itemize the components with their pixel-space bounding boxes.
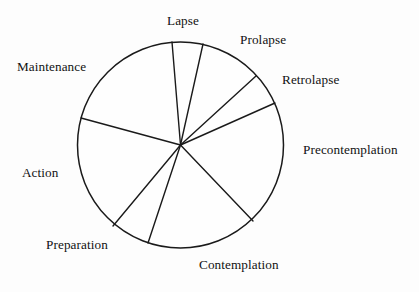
segment-label-precontemplation: Precontemplation [303, 143, 398, 156]
segment-label-prolapse: Prolapse [240, 33, 286, 46]
segment-label-action: Action [22, 166, 59, 179]
segment-label-retrolapse: Retrolapse [282, 73, 339, 86]
segment-label-maintenance: Maintenance [17, 60, 86, 73]
segment-label-preparation: Preparation [46, 238, 108, 251]
stages-of-change-figure: Lapse Prolapse Retrolapse Precontemplati… [0, 0, 419, 292]
segment-label-contemplation: Contemplation [199, 258, 279, 271]
segment-label-lapse: Lapse [167, 14, 199, 27]
